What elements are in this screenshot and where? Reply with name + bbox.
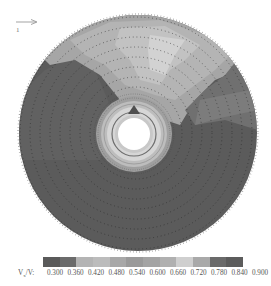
hub-hole xyxy=(118,118,150,150)
colorbar-tick-label: 0.540 xyxy=(129,269,145,277)
colorbar-swatch xyxy=(43,257,60,267)
colorbar-title: Vx/V: xyxy=(18,269,34,278)
colorbar-labels: Vx/V: 0.3000.3600.4200.4800.5400.6000.66… xyxy=(18,269,271,281)
colorbar-swatch xyxy=(60,257,77,267)
colorbar-tick-label: 0.300 xyxy=(47,269,63,277)
colorbar-swatch xyxy=(226,257,243,267)
colorbar-swatch xyxy=(160,257,177,267)
colorbar-swatch xyxy=(143,257,160,267)
colorbar-swatch xyxy=(210,257,227,267)
direction-arrow-icon xyxy=(16,20,37,25)
colorbar-swatch xyxy=(176,257,193,267)
colorbar-tick-label: 0.480 xyxy=(108,269,124,277)
colorbar-tick-label: 0.600 xyxy=(149,269,165,277)
colorbar-swatch xyxy=(193,257,210,267)
colorbar-swatch xyxy=(110,257,127,267)
colorbar-tick-label: 0.840 xyxy=(231,269,247,277)
direction-label: 1 xyxy=(16,26,20,34)
colorbar-tick-label: 0.660 xyxy=(170,269,186,277)
colorbar xyxy=(43,257,243,267)
contour-plot xyxy=(0,0,271,286)
colorbar-swatch xyxy=(126,257,143,267)
colorbar-swatch xyxy=(76,257,93,267)
colorbar-tick-label: 0.360 xyxy=(67,269,83,277)
colorbar-tick-label: 0.420 xyxy=(88,269,104,277)
colorbar-tick-label: 0.900 xyxy=(252,269,268,277)
colorbar-tick-label: 0.780 xyxy=(211,269,227,277)
colorbar-swatch xyxy=(93,257,110,267)
colorbar-tick-label: 0.720 xyxy=(190,269,206,277)
